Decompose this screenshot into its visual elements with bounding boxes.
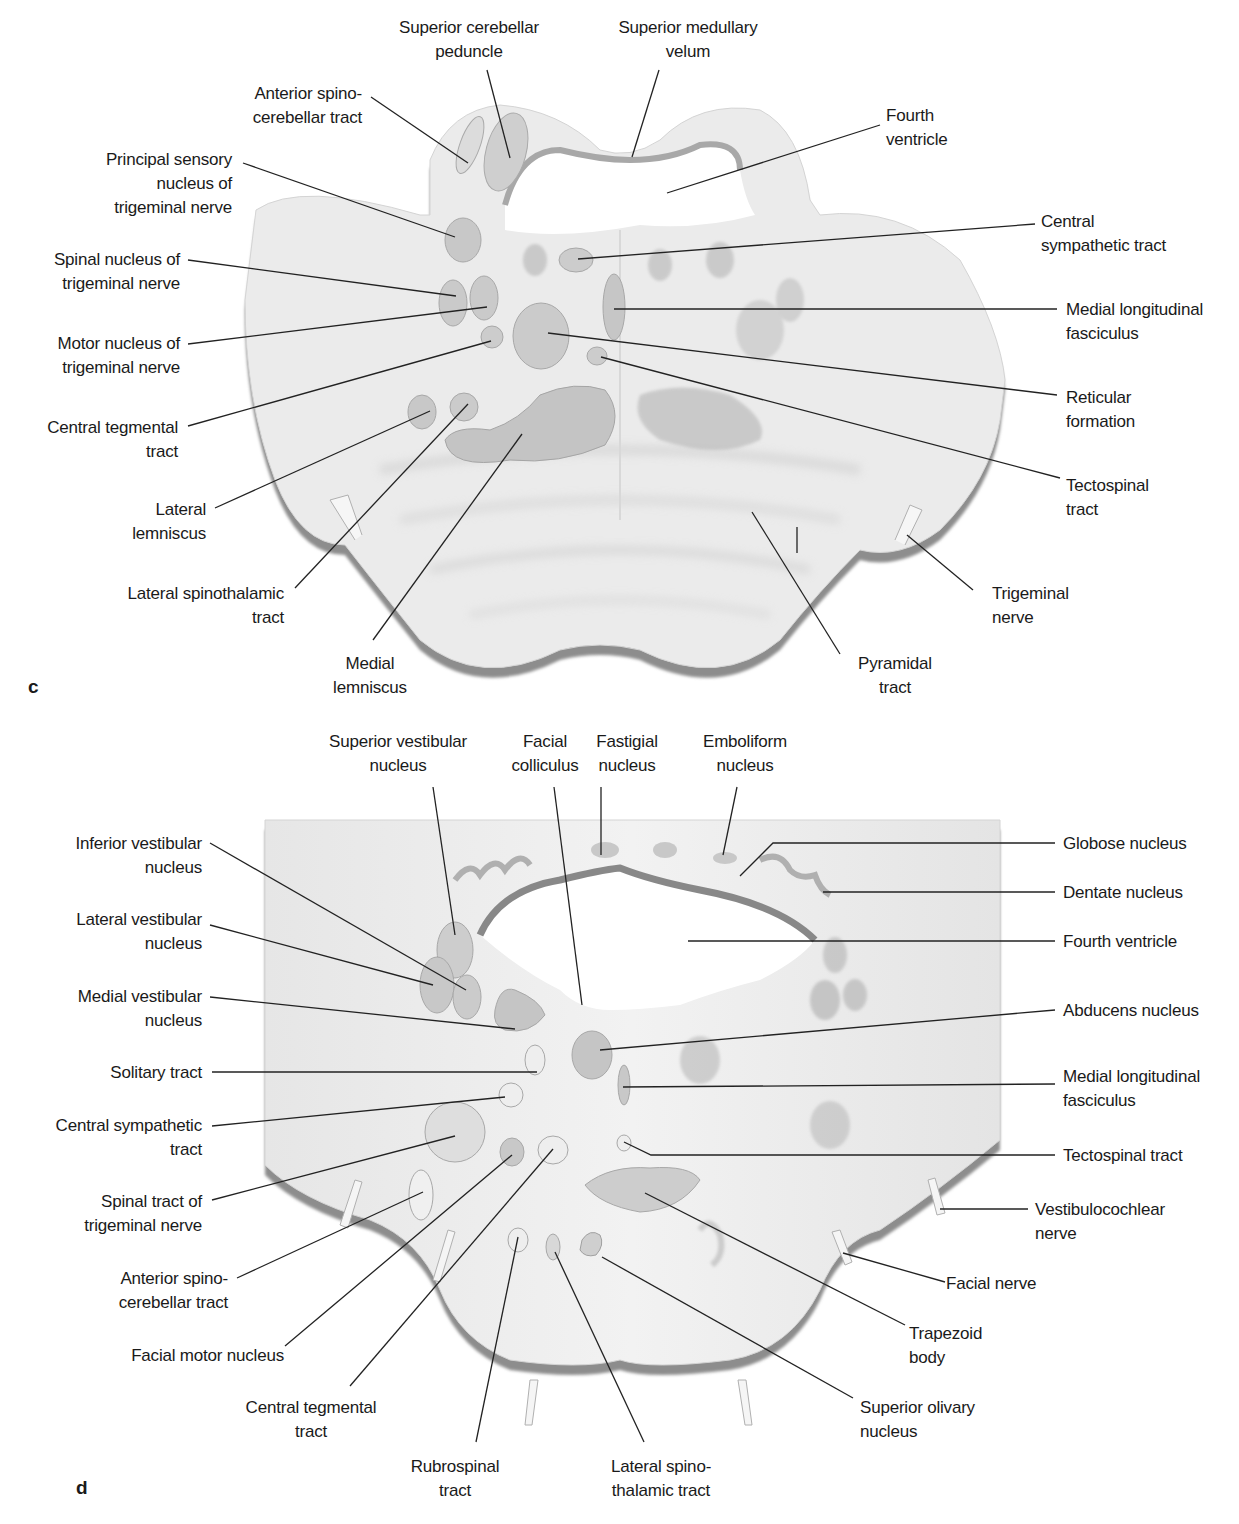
label-principal-sensory-nucleus: Principal sensory nucleus of trigeminal … — [40, 148, 232, 220]
label-medial-longitudinal-fasciculus-d: Medial longitudinal fasciculus — [1063, 1065, 1200, 1113]
label-solitary-tract: Solitary tract — [20, 1061, 202, 1085]
label-lateral-lemniscus-c: Lateral lemniscus — [60, 498, 206, 546]
pons-cross-section-figure: Superior cerebellar peduncle Superior me… — [0, 0, 1239, 1524]
label-tectospinal-tract-c: Tectospinal tract — [1066, 474, 1149, 522]
label-medial-longitudinal-fasciculus-c: Medial longitudinal fasciculus — [1066, 298, 1203, 346]
label-central-tegmental-tract-d: Central tegmental tract — [240, 1396, 382, 1444]
label-fastigial-nucleus: Fastigial nucleus — [588, 730, 666, 778]
label-facial-nerve: Facial nerve — [946, 1272, 1036, 1296]
label-rubrospinal-tract: Rubrospinal tract — [405, 1455, 505, 1503]
label-inferior-vestibular-nucleus: Inferior vestibular nucleus — [20, 832, 202, 880]
label-tectospinal-tract-d: Tectospinal tract — [1063, 1144, 1182, 1168]
label-superior-vestibular-nucleus: Superior vestibular nucleus — [310, 730, 486, 778]
label-anterior-spinocerebellar-tract-d: Anterior spino- cerebellar tract — [60, 1267, 228, 1315]
label-central-tegmental-tract-c: Central tegmental tract — [0, 416, 178, 464]
label-lateral-spinothalamic-tract-d: Lateral spino- thalamic tract — [596, 1455, 726, 1503]
panel-letter-c: c — [28, 676, 39, 698]
label-trapezoid-body: Trapezoid body — [909, 1322, 982, 1370]
label-facial-colliculus: Facial colliculus — [505, 730, 585, 778]
label-pyramidal-tract: Pyramidal tract — [840, 652, 950, 700]
label-trigeminal-nerve-c: Trigeminal nerve — [992, 582, 1069, 630]
label-emboliform-nucleus: Emboliform nucleus — [697, 730, 793, 778]
label-medial-lemniscus: Medial lemniscus — [320, 652, 420, 700]
label-reticular-formation: Reticular formation — [1066, 386, 1135, 434]
label-vestibulocochlear-nerve: Vestibulocochlear nerve — [1035, 1198, 1165, 1246]
label-fourth-ventricle-d: Fourth ventricle — [1063, 930, 1177, 954]
panel-letter-d: d — [76, 1477, 88, 1499]
label-lateral-vestibular-nucleus: Lateral vestibular nucleus — [20, 908, 202, 956]
label-superior-medullary-velum: Superior medullary velum — [600, 16, 776, 64]
label-dentate-nucleus: Dentate nucleus — [1063, 881, 1183, 905]
label-globose-nucleus: Globose nucleus — [1063, 832, 1187, 856]
label-motor-nucleus-trigeminal: Motor nucleus of trigeminal nerve — [10, 332, 180, 380]
panel-d-section — [265, 820, 1000, 1425]
label-spinal-tract-trigeminal: Spinal tract of trigeminal nerve — [20, 1190, 202, 1238]
label-superior-cerebellar-peduncle: Superior cerebellar peduncle — [384, 16, 554, 64]
label-medial-vestibular-nucleus: Medial vestibular nucleus — [20, 985, 202, 1033]
label-central-sympathetic-tract-c: Central sympathetic tract — [1041, 210, 1166, 258]
label-abducens-nucleus: Abducens nucleus — [1063, 999, 1199, 1023]
label-fourth-ventricle-c: Fourth ventricle — [886, 104, 948, 152]
label-superior-olivary-nucleus: Superior olivary nucleus — [860, 1396, 975, 1444]
label-lateral-spinothalamic-tract-c: Lateral spinothalamic tract — [80, 582, 284, 630]
label-anterior-spinocerebellar-tract-c: Anterior spino- cerebellar tract — [200, 82, 362, 130]
label-spinal-nucleus-trigeminal: Spinal nucleus of trigeminal nerve — [10, 248, 180, 296]
panel-c-section — [245, 105, 1005, 678]
label-facial-motor-nucleus: Facial motor nucleus — [80, 1344, 284, 1368]
label-central-sympathetic-tract-d: Central sympathetic tract — [10, 1114, 202, 1162]
